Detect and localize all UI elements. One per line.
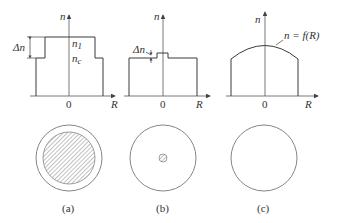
cross-section-a xyxy=(36,125,102,191)
fiber-circle-c xyxy=(231,125,297,191)
cladding-index-label: nc xyxy=(72,52,82,66)
cross-section-c xyxy=(231,125,297,191)
panel-c-profile: n = f(R) n R 0 xyxy=(226,12,320,110)
delta-n-leader-b xyxy=(146,52,151,55)
caption-c: (c) xyxy=(257,202,270,215)
origin-label-b: 0 xyxy=(160,98,166,110)
origin-label-a: 0 xyxy=(66,98,72,110)
delta-n-label-a: Δn xyxy=(12,41,25,53)
cross-section-b xyxy=(130,125,196,191)
origin-label-c: 0 xyxy=(262,98,268,110)
panel-b-profile: Δn n R 0 xyxy=(124,10,210,110)
core-index-label: n1 xyxy=(72,37,82,51)
step-index-curve xyxy=(36,37,103,96)
r-axis-label-c: R xyxy=(304,98,312,110)
caption-b: (b) xyxy=(156,202,169,215)
graded-index-curve xyxy=(231,46,298,97)
curve-label-c: n = f(R) xyxy=(284,29,320,42)
core-circle-a xyxy=(43,132,95,184)
r-axis-label-b: R xyxy=(195,98,203,110)
r-axis-label-a: R xyxy=(110,98,118,110)
panel-a-profile: Δn n R 0 n1 nc xyxy=(12,10,118,110)
n-axis-label-c: n xyxy=(255,13,261,25)
caption-a: (a) xyxy=(62,202,75,215)
curve-leader-c xyxy=(276,40,283,45)
core-circle-b xyxy=(159,154,167,162)
fiber-index-profile-figure: Δn n R 0 n1 nc Δn n R 0 n = f(R) n R 0 xyxy=(0,0,337,223)
n-axis-label-b: n xyxy=(154,10,160,22)
delta-n-label-b: Δn xyxy=(132,43,145,55)
n-axis-label-a: n xyxy=(60,10,66,22)
